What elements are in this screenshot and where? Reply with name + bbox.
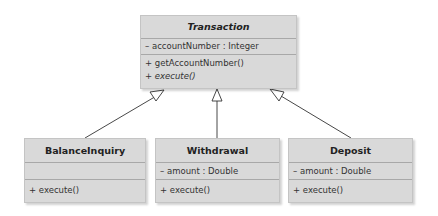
operation: + getAccountNumber() (145, 57, 296, 70)
arrowhead-icon (270, 89, 284, 101)
class-withdrawal: Withdrawal – amount : Double + execute() (155, 138, 280, 203)
attribute: – amount : Double (293, 163, 412, 179)
edge-balanceinquiry (85, 95, 158, 138)
edge-deposit (281, 96, 351, 138)
class-name: Deposit (289, 139, 412, 162)
attributes-section: – accountNumber : Integer (141, 38, 296, 54)
class-name: Withdrawal (156, 139, 279, 162)
class-name: Transaction (141, 16, 296, 38)
attributes-section (25, 162, 145, 179)
arrowhead-icon (212, 89, 222, 101)
operations-section: + getAccountNumber() + execute() (141, 54, 296, 88)
operations-section: + execute() (25, 179, 145, 202)
class-transaction: Transaction – accountNumber : Integer + … (140, 15, 297, 89)
class-name: BalanceInquiry (25, 139, 145, 162)
arrowhead-icon (150, 90, 164, 101)
operations-section: + execute() (289, 179, 412, 202)
class-deposit: Deposit – amount : Double + execute() (288, 138, 413, 203)
attribute: – accountNumber : Integer (145, 39, 296, 54)
operations-section: + execute() (156, 179, 279, 202)
attributes-section: – amount : Double (156, 162, 279, 179)
attribute: – amount : Double (160, 163, 279, 179)
operation: + execute() (29, 180, 145, 201)
class-balanceinquiry: BalanceInquiry + execute() (24, 138, 146, 203)
operation: + execute() (160, 180, 279, 201)
operation-abstract: + execute() (145, 70, 296, 83)
operation: + execute() (293, 180, 412, 201)
attributes-section: – amount : Double (289, 162, 412, 179)
